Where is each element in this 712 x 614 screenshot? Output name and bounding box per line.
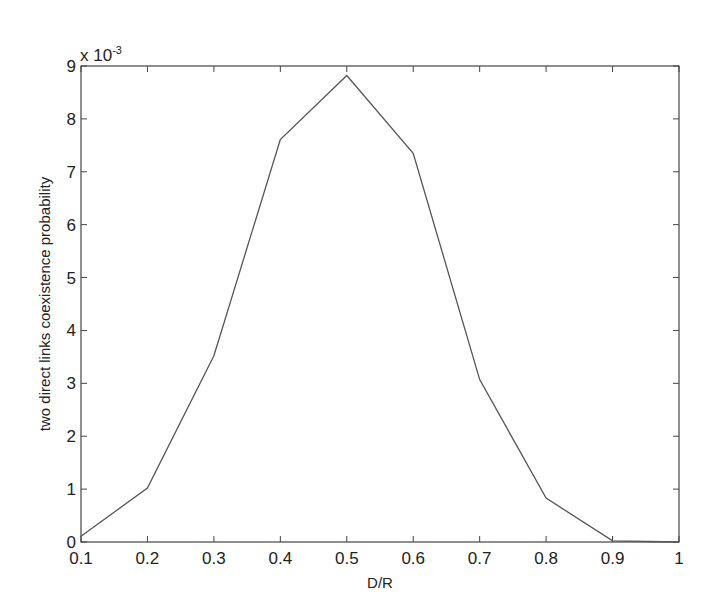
y-tick-label: 2 <box>67 427 76 446</box>
x-tick-label: 0.9 <box>601 549 625 568</box>
y-tick-label: 0 <box>67 533 76 552</box>
y-tick-label: 9 <box>67 57 76 76</box>
y-axis-label: two direct links coexistence probability <box>36 176 53 431</box>
data-series <box>81 76 679 543</box>
x-axis-label: D/R <box>367 574 393 591</box>
y-tick-label: 7 <box>67 163 76 182</box>
x-tick-label: 0.2 <box>136 549 160 568</box>
x-tick-label: 0.3 <box>202 549 226 568</box>
series-line <box>81 76 679 543</box>
x-tick-label: 0.6 <box>401 549 425 568</box>
y-tick-label: 8 <box>67 110 76 129</box>
y-tick-label: 4 <box>67 321 76 340</box>
y-tick-label: 3 <box>67 374 76 393</box>
x-tick-label: 0.7 <box>468 549 492 568</box>
y-tick-label: 1 <box>67 480 76 499</box>
y-axis-multiplier: x 10-3 <box>80 44 122 65</box>
y-axis: 0123456789 <box>67 57 679 552</box>
x-tick-label: 0.5 <box>335 549 359 568</box>
x-tick-label: 0.8 <box>534 549 558 568</box>
x-axis: 0.10.20.30.40.50.60.70.80.91 <box>69 66 684 568</box>
x-tick-label: 1 <box>674 549 683 568</box>
line-chart: 0.10.20.30.40.50.60.70.80.91 0123456789 … <box>0 0 712 614</box>
plot-area <box>81 66 679 542</box>
multiplier-exponent: -3 <box>112 44 122 56</box>
y-tick-label: 5 <box>67 269 76 288</box>
y-tick-label: 6 <box>67 216 76 235</box>
plot-frame <box>81 66 679 542</box>
x-tick-label: 0.4 <box>269 549 293 568</box>
